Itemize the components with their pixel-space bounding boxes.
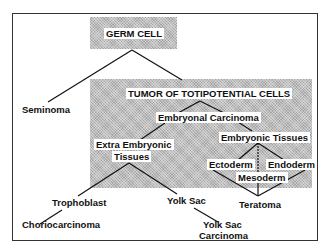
yolk-sac-label: Yolk Sac — [167, 195, 206, 206]
yolk-sac-carcinoma-label-line1: Yolk Sac — [203, 219, 242, 230]
connector-lines — [0, 0, 328, 250]
extra-embryonic-label-line2: Tissues — [112, 151, 151, 162]
mesoderm-label: Mesoderm — [236, 172, 288, 183]
tumor-box-label: TUMOR OF TOTIPOTENTIAL CELLS — [126, 88, 292, 99]
choriocarcinoma-label: Choriocarcinoma — [22, 219, 100, 230]
yolk-sac-carcinoma-label-line2: Carcinoma — [199, 230, 248, 241]
seminoma-label: Seminoma — [22, 104, 70, 115]
extra-embryonic-label-line1: Extra Embryonic — [94, 139, 174, 150]
embryonic-tissues-label: Embryonic Tissues — [219, 132, 310, 143]
germ-cell-label: GERM CELL — [104, 28, 164, 39]
teratoma-label: Teratoma — [239, 199, 281, 210]
trophoblast-label: Trophoblast — [52, 197, 106, 208]
embryonal-carcinoma-label: Embryonal Carcinoma — [156, 112, 261, 123]
endoderm-label: Endoderm — [266, 159, 317, 170]
ectoderm-label: Ectoderm — [207, 159, 255, 170]
